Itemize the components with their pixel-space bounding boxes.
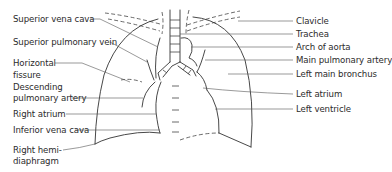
label-trachea: Trachea — [296, 29, 329, 40]
spine-markings — [172, 86, 179, 132]
clavicle-right-side — [105, 13, 160, 31]
label-left-main-bronchus: Left main bronchus — [296, 69, 377, 80]
aortic-arch — [181, 38, 197, 66]
label-inferior-vena-cava: Inferior vena cava — [13, 125, 89, 136]
label-superior-pulmonary-vein: Superior pulmonary vein — [13, 37, 117, 48]
trachea-rings — [170, 20, 180, 52]
left-atrium-border — [197, 72, 207, 90]
right-hemidiaphragm — [95, 132, 160, 144]
label-left-ventricle: Left ventricle — [296, 104, 351, 115]
label-arch-of-aorta: Arch of aorta — [296, 42, 351, 53]
left-hemidiaphragm — [219, 133, 251, 147]
superior-pulmonary-vein — [147, 60, 154, 80]
left-ventricle-border — [207, 90, 219, 133]
label-horizontal-fissure-line1: Horizontal — [13, 58, 56, 69]
label-main-pulmonary-artery: Main pulmonary artery — [296, 55, 392, 66]
label-left-atrium: Left atrium — [296, 89, 342, 100]
clavicle-left-side — [187, 11, 240, 31]
label-descending-pulmonary-artery-line1: Descending — [13, 82, 63, 93]
label-horizontal-fissure-line2: fissure — [13, 70, 41, 81]
right-atrium-border — [156, 82, 161, 133]
label-superior-vena-cava: Superior vena cava — [13, 14, 94, 25]
left-main-bronchus — [178, 62, 196, 76]
label-right-hemidiaphragm-line1: Right hemi- — [13, 145, 62, 156]
label-clavicle: Clavicle — [296, 16, 329, 27]
label-descending-pulmonary-artery-line2: pulmonary artery — [13, 93, 86, 104]
label-right-atrium: Right atrium — [13, 109, 66, 120]
left-lung-outline — [193, 17, 252, 147]
right-main-bronchus — [158, 62, 180, 80]
left-hilum-vessel — [197, 50, 205, 72]
right-descending-pulmonary-artery — [142, 82, 155, 107]
label-right-hemidiaphragm-line2: diaphragm — [13, 156, 59, 167]
